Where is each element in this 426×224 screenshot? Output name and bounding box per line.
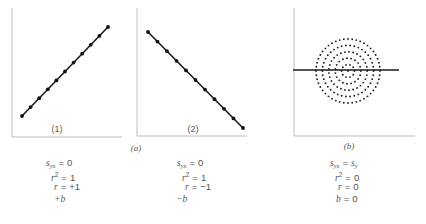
data-point <box>319 86 321 88</box>
data-point <box>355 39 357 41</box>
data-points <box>315 38 381 104</box>
panel-label-2: (2) <box>188 124 199 134</box>
stat-row: r=−1 <box>185 181 211 193</box>
data-point <box>347 102 349 104</box>
data-point <box>352 89 354 91</box>
data-point <box>346 83 348 85</box>
data-point <box>342 58 344 60</box>
data-point <box>316 78 318 80</box>
data-point <box>329 64 331 66</box>
data-point <box>349 76 351 78</box>
data-point <box>322 74 324 76</box>
data-point <box>371 78 373 80</box>
stats-panel-1: syx=0r2=1r=+1+b <box>46 157 72 205</box>
stat-relation: = <box>339 157 351 168</box>
data-point <box>336 86 338 88</box>
data-point <box>184 69 188 73</box>
data-point <box>322 90 324 92</box>
data-point <box>328 45 330 47</box>
data-point <box>333 91 335 93</box>
data-point <box>37 96 41 100</box>
stat-row: r2=0 <box>335 169 363 181</box>
data-point <box>354 59 356 61</box>
data-point <box>346 57 348 59</box>
data-point <box>194 78 198 82</box>
data-point <box>354 81 356 83</box>
data-point <box>345 64 347 66</box>
data-point <box>339 101 341 103</box>
data-point <box>367 45 369 47</box>
data-point <box>372 66 374 68</box>
data-point <box>364 89 366 91</box>
data-point <box>340 88 342 90</box>
data-point <box>366 74 368 76</box>
data-point <box>356 53 358 55</box>
data-point <box>335 40 337 42</box>
data-point <box>372 51 374 53</box>
data-point <box>361 49 363 51</box>
stat-relation: = <box>341 193 353 204</box>
stat-symbol: −b <box>176 194 187 204</box>
data-point <box>331 98 333 100</box>
data-point <box>349 64 351 66</box>
data-point <box>343 38 345 40</box>
data-point <box>335 100 337 102</box>
stat-symbol: +b <box>54 194 65 204</box>
data-point <box>342 74 344 76</box>
data-point <box>372 74 374 76</box>
data-point <box>334 72 336 74</box>
data-point <box>319 54 321 56</box>
data-point <box>378 62 380 64</box>
data-point <box>327 54 329 56</box>
stat-row: b=0 <box>336 193 364 205</box>
data-point <box>349 45 351 47</box>
data-point <box>315 66 317 68</box>
stat-relation: = <box>58 181 70 192</box>
data-point <box>317 58 319 60</box>
data-point <box>63 70 67 74</box>
data-point <box>361 91 363 93</box>
data-point <box>377 82 379 84</box>
data-point <box>362 82 364 84</box>
data-point <box>347 38 349 40</box>
data-point <box>362 58 364 60</box>
data-point <box>370 93 372 95</box>
data-point <box>337 93 339 95</box>
stat-value: −1 <box>200 181 211 192</box>
data-point <box>355 101 357 103</box>
data-point <box>353 95 355 97</box>
data-point <box>338 79 340 81</box>
stat-value: 0 <box>352 193 357 204</box>
data-point <box>367 54 369 56</box>
stat-row: +b <box>54 193 80 205</box>
data-point <box>232 117 236 121</box>
data-point <box>222 107 226 111</box>
data-point <box>316 62 318 64</box>
data-point <box>89 43 93 47</box>
data-point <box>352 52 354 54</box>
data-point <box>357 93 359 95</box>
data-point <box>203 88 207 92</box>
data-point <box>20 114 24 118</box>
data-point <box>322 51 324 53</box>
stat-value: +1 <box>69 181 80 192</box>
data-point <box>367 95 369 97</box>
data-point <box>348 89 350 91</box>
data-point <box>350 58 352 60</box>
data-point <box>359 66 361 68</box>
data-point <box>345 76 347 78</box>
data-point <box>322 66 324 68</box>
data-point <box>333 83 335 85</box>
data-point <box>350 82 352 84</box>
stat-row: r2=1 <box>182 169 208 181</box>
stat-relation: = <box>55 157 67 168</box>
stat-row: −b <box>176 193 202 205</box>
data-point <box>370 47 372 49</box>
data-point <box>165 49 169 53</box>
data-point <box>364 51 366 53</box>
data-point <box>366 66 368 68</box>
data-point <box>336 64 338 66</box>
stats-panel-b: syx=syr2=0r=0b=0 <box>330 157 358 205</box>
data-point <box>342 82 344 84</box>
panel-1: (1) <box>12 8 122 137</box>
